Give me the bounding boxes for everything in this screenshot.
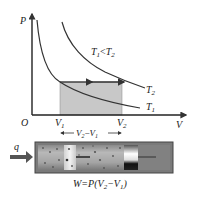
v2-label: V2: [117, 117, 127, 130]
isotherm-t1-curve: [37, 20, 140, 108]
piston: [124, 145, 138, 170]
v-axis-label: V: [176, 119, 184, 130]
work-formula: W=P(V2−V1): [73, 178, 127, 191]
origin-label: O: [21, 117, 28, 128]
isotherm-t1-label: T1: [146, 101, 155, 114]
p-axis-label: P: [19, 15, 26, 26]
v1-label: V1: [55, 117, 65, 130]
heat-arrow-icon: [10, 151, 33, 163]
isotherm-t2-label: T2: [146, 84, 156, 97]
isothermal-expansion-diagram: P V O T1<T2 T2 T1 V1 V2 V2−V1 q: [0, 0, 197, 200]
condition-label: T1<T2: [91, 46, 115, 59]
delta-v-label: V2−V1: [76, 128, 98, 139]
heat-label: q: [14, 141, 19, 152]
piston-cylinder: [35, 142, 173, 173]
